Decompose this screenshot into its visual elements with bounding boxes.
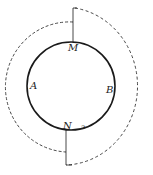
small-mark: ɔ — [81, 123, 85, 131]
right-dashed-arc — [66, 8, 138, 165]
left-dashed-arc — [5, 22, 73, 152]
label-a: A — [29, 80, 37, 91]
label-b: B — [105, 84, 113, 95]
inner-circle — [27, 42, 115, 130]
diagram-canvas: M A B N ɔ — [0, 0, 153, 175]
label-n: N — [62, 120, 73, 131]
label-m: M — [67, 42, 79, 53]
